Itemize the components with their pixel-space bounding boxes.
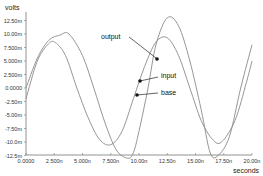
output-label: output: [101, 33, 121, 41]
output-callout: output: [101, 33, 159, 61]
x-tick-label: 20.00n: [244, 158, 261, 164]
y-tick-label: -5.00m: [5, 112, 23, 118]
x-tick-label: 7.500n: [102, 158, 119, 164]
y-tick-label: 2.500m: [4, 72, 23, 78]
input-curve: [26, 37, 252, 145]
output-curve: [26, 17, 252, 159]
y-tick-label: -10.0m: [5, 139, 23, 145]
x-tick-label: 5.000n: [74, 158, 91, 164]
input-label: input: [161, 72, 176, 80]
x-tick-group: 0.00002.500n5.000n7.500n10.00n12.50n15.0…: [18, 153, 261, 164]
x-tick-label: 10.00n: [131, 158, 148, 164]
input-callout: input: [138, 72, 176, 83]
base-callout: base: [135, 89, 176, 97]
x-tick-label: 12.50n: [159, 158, 176, 164]
x-tick-label: 15.00n: [187, 158, 204, 164]
base-label: base: [161, 89, 176, 96]
y-tick-label: 12.50m: [4, 18, 23, 24]
x-axis-title: seconds: [233, 167, 260, 174]
line-chart: volts seconds 12.50m10.00m7.500m5.000m2.…: [0, 0, 263, 176]
x-tick-label: 2.500n: [46, 158, 63, 164]
y-tick-label: 0.0000: [5, 85, 22, 91]
x-tick-label: 17.50n: [215, 158, 232, 164]
y-tick-group: 12.50m10.00m7.500m5.000m2.500m0.0000-2.5…: [4, 18, 26, 159]
y-tick-label: 7.500m: [4, 45, 23, 51]
y-tick-label: -2.50m: [5, 99, 23, 105]
y-tick-label: 5.000m: [4, 58, 23, 64]
y-tick-label: 10.00m: [4, 31, 23, 37]
x-tick-label: 0.0000: [18, 158, 35, 164]
y-tick-label: -7.50m: [5, 126, 23, 132]
y-axis-title: volts: [5, 4, 20, 11]
